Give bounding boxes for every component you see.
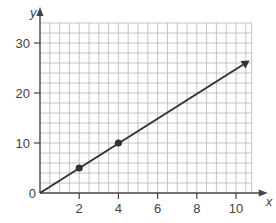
x-axis-label: x (265, 194, 273, 209)
y-axis-label: y (29, 5, 38, 20)
data-point (76, 164, 83, 171)
y-tick-label: 30 (16, 36, 30, 51)
data-line (40, 65, 243, 193)
x-tick-label: 10 (229, 201, 243, 216)
line-chart: 2468100102030 x y (0, 0, 276, 223)
axes (37, 7, 268, 197)
grid (40, 23, 252, 193)
y-axis-arrow-icon (37, 7, 44, 16)
data-point (115, 139, 122, 146)
y-tick-label: 20 (16, 86, 30, 101)
x-tick-label: 6 (154, 201, 161, 216)
x-tick-label: 4 (115, 201, 122, 216)
x-tick-label: 2 (76, 201, 83, 216)
x-tick-label: 8 (193, 201, 200, 216)
y-tick-label: 0 (29, 186, 36, 201)
y-tick-label: 10 (16, 136, 30, 151)
